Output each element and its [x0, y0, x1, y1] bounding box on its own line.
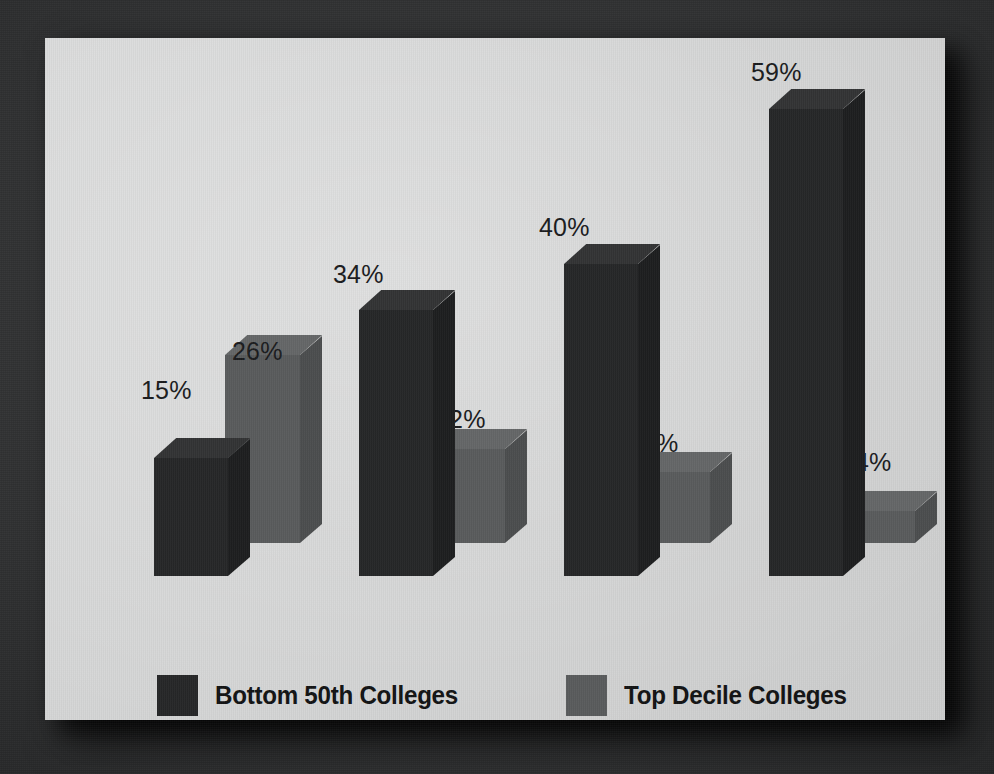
bar-side-face: [505, 430, 527, 543]
bar-bottom-50th-2[interactable]: [359, 310, 433, 576]
chart-frame-background: 26% 15% 12% 34%: [0, 0, 994, 774]
value-label-bottom-50th-3: 40%: [539, 215, 590, 240]
bar-front-face: [564, 264, 638, 576]
value-label-bottom-50th-4: 59%: [751, 60, 802, 85]
bar-bottom-50th-3[interactable]: [564, 264, 638, 576]
bar-side-face: [433, 291, 455, 576]
legend-swatch-top-decile: [566, 675, 607, 716]
value-label-bottom-50th-1: 15%: [141, 378, 192, 403]
legend-label-bottom-50th: Bottom 50th Colleges: [215, 680, 458, 711]
bar-front-face: [359, 310, 433, 576]
bar-front-face: [154, 458, 228, 576]
legend-label-top-decile: Top Decile Colleges: [624, 680, 847, 711]
bar-side-face: [843, 90, 865, 576]
bar-front-face: [769, 109, 843, 576]
legend-swatch-bottom-50th: [157, 675, 198, 716]
bar-side-face: [638, 245, 660, 576]
chart-legend: Bottom 50th Colleges Top Decile Colleges: [45, 600, 945, 720]
bar-bottom-50th-1[interactable]: [154, 458, 228, 576]
bar-bottom-50th-4[interactable]: [769, 109, 843, 576]
chart-panel: 26% 15% 12% 34%: [45, 38, 945, 720]
bar-side-face: [300, 336, 322, 543]
legend-item-bottom-50th[interactable]: Bottom 50th Colleges: [157, 675, 476, 716]
value-label-bottom-50th-2: 34%: [333, 262, 384, 287]
value-label-top-decile-1: 26%: [232, 339, 283, 364]
bar-side-face: [228, 439, 250, 576]
legend-item-top-decile[interactable]: Top Decile Colleges: [566, 675, 863, 716]
